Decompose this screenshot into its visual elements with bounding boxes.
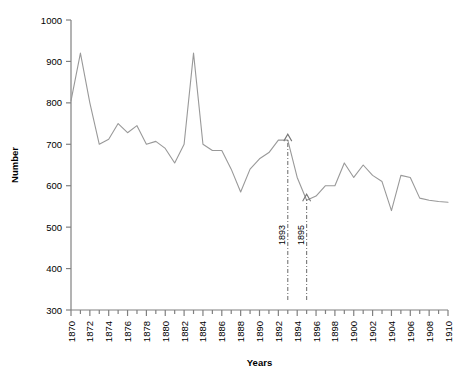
x-axis-tick-label: 1896 — [311, 321, 322, 342]
y-axis-title: Number — [9, 147, 20, 183]
x-axis-tick-label: 1886 — [216, 321, 227, 342]
data-series-line — [71, 53, 448, 210]
x-axis-tick-label: 1876 — [122, 321, 133, 342]
line-chart: 3004005006007008009001000187018721874187… — [0, 0, 465, 380]
annotation-label: 1895 — [296, 225, 306, 245]
y-axis-tick-label: 400 — [46, 263, 62, 274]
x-axis-tick-label: 1894 — [292, 321, 303, 342]
y-axis-tick-label: 900 — [46, 56, 62, 67]
chart-canvas: 3004005006007008009001000187018721874187… — [0, 0, 465, 380]
x-axis-tick-label: 1884 — [197, 321, 208, 342]
x-axis-tick-label: 1908 — [424, 321, 435, 342]
x-axis-tick-label: 1882 — [179, 321, 190, 342]
y-axis-tick-label: 1000 — [41, 15, 62, 26]
x-axis-tick-label: 1870 — [66, 321, 77, 342]
x-axis-tick-label: 1902 — [367, 321, 378, 342]
x-axis-tick-label: 1872 — [84, 321, 95, 342]
x-axis-tick-label: 1910 — [443, 321, 454, 342]
x-axis-title: Years — [247, 357, 272, 368]
x-axis-tick-label: 1880 — [160, 321, 171, 342]
y-axis-tick-label: 300 — [46, 305, 62, 316]
y-axis-tick-label: 800 — [46, 97, 62, 108]
annotation-label: 1893 — [277, 225, 287, 245]
x-axis-tick-label: 1890 — [254, 321, 265, 342]
x-axis-tick-label: 1900 — [348, 321, 359, 342]
x-axis-tick-label: 1874 — [103, 321, 114, 342]
x-axis-tick-label: 1906 — [405, 321, 416, 342]
x-axis-tick-label: 1892 — [273, 321, 284, 342]
y-axis-tick-label: 700 — [46, 139, 62, 150]
y-axis-tick-label: 500 — [46, 222, 62, 233]
x-axis-tick-label: 1878 — [141, 321, 152, 342]
x-axis-tick-label: 1904 — [386, 321, 397, 342]
x-axis-tick-label: 1898 — [329, 321, 340, 342]
x-axis-tick-label: 1888 — [235, 321, 246, 342]
y-axis-tick-label: 600 — [46, 180, 62, 191]
